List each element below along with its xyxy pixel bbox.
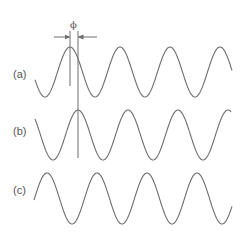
waveform-figure (0, 0, 248, 235)
phase-symbol: ϕ (70, 20, 77, 30)
wave-label-c: (c) (13, 185, 26, 196)
sine-wave-c (34, 173, 232, 224)
sine-wave-b (35, 110, 231, 160)
wave-label-a: (a) (13, 69, 26, 80)
sine-wave-a (35, 47, 232, 97)
wave-label-b: (b) (13, 126, 26, 137)
phase-shift-diagram: ϕ (a) (b) (c) (0, 0, 248, 235)
